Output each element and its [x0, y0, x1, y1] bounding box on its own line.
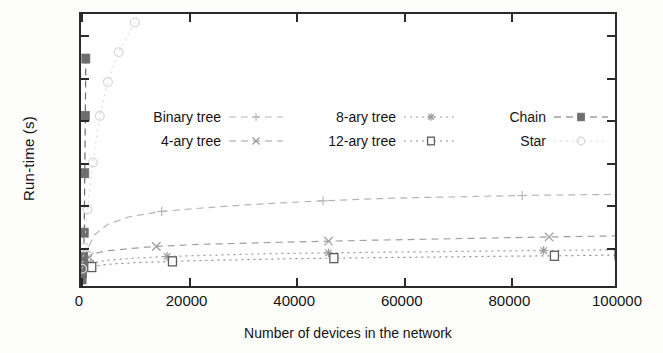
- legend-item-4-ary-tree: 4-ary tree: [110, 133, 285, 149]
- legend-key-star-icon: [402, 109, 460, 125]
- x-tick-label: 0: [34, 292, 124, 309]
- legend-label: 4-ary tree: [161, 133, 227, 149]
- x-tick-label: 100000: [572, 292, 662, 309]
- legend-key-plus-icon: [227, 109, 285, 125]
- y-tick-right: [607, 163, 615, 165]
- runtime-chart-figure: Run-time (s) Binary tree 8-ary tree Chai…: [0, 0, 663, 353]
- y-tick: [81, 120, 89, 122]
- legend-key-circle-open-icon: [552, 133, 610, 149]
- legend-item-binary-tree: Binary tree: [110, 109, 285, 125]
- legend-item-chain: Chain: [460, 109, 610, 125]
- y-tick: [81, 248, 89, 250]
- x-tick: [511, 14, 513, 22]
- legend-row: Binary tree 8-ary tree Chain: [110, 105, 610, 129]
- x-tick: [404, 14, 406, 22]
- legend-item-12-ary-tree: 12-ary tree: [285, 133, 460, 149]
- x-tick-top: [296, 278, 298, 286]
- x-tick-label: 40000: [249, 292, 339, 309]
- y-tick-right: [607, 205, 615, 207]
- legend-key-x-icon: [227, 133, 285, 149]
- series-12-ary-tree: [82, 250, 617, 273]
- legend-label: 8-ary tree: [336, 109, 402, 125]
- legend-key-square-open-icon: [402, 133, 460, 149]
- x-tick: [81, 14, 83, 22]
- chart-legend: Binary tree 8-ary tree Chain 4-ary tree …: [110, 105, 610, 153]
- x-tick-label: 80000: [464, 292, 554, 309]
- y-tick-right: [607, 78, 615, 80]
- y-tick: [81, 78, 89, 80]
- legend-label: Binary tree: [153, 109, 227, 125]
- x-tick: [296, 14, 298, 22]
- x-tick-top: [511, 278, 513, 286]
- y-tick-right: [607, 35, 615, 37]
- x-tick-label: 20000: [142, 292, 232, 309]
- x-tick-top: [189, 278, 191, 286]
- x-tick-top: [404, 278, 406, 286]
- y-tick: [81, 163, 89, 165]
- legend-label: Star: [520, 133, 552, 149]
- x-axis-title: Number of devices in the network: [79, 325, 617, 341]
- legend-item-star: Star: [460, 133, 610, 149]
- y-tick: [81, 205, 89, 207]
- y-axis-title: Run-time (s): [20, 69, 37, 249]
- series-4-ary-tree: [82, 232, 617, 271]
- legend-label: Chain: [509, 109, 552, 125]
- series-8-ary-tree: [82, 245, 617, 272]
- legend-key-square-filled-icon: [552, 109, 610, 125]
- x-tick-top: [81, 278, 83, 286]
- legend-row: 4-ary tree 12-ary tree Star: [110, 129, 610, 153]
- legend-label: 12-ary tree: [328, 133, 402, 149]
- x-tick: [189, 14, 191, 22]
- y-tick: [81, 35, 89, 37]
- y-tick-right: [607, 248, 615, 250]
- legend-item-8-ary-tree: 8-ary tree: [285, 109, 460, 125]
- x-tick-label: 60000: [357, 292, 447, 309]
